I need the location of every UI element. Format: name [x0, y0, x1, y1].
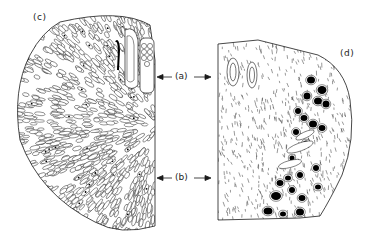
histology-figure — [0, 0, 374, 238]
panel-d-dark-nuclei — [262, 75, 331, 218]
annotation-label-b: (b) — [175, 172, 188, 182]
annotation-label-a: (a) — [175, 71, 188, 81]
panel-d-glands — [227, 58, 257, 88]
panel-label-c: (c) — [33, 12, 46, 22]
panel-label-d: (d) — [340, 48, 354, 58]
